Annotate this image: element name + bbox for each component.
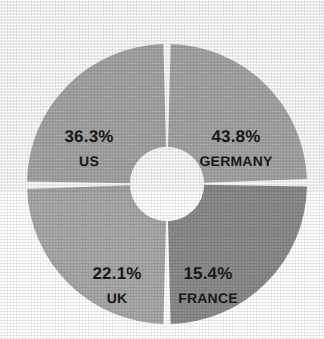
slice-percent-uk: 22.1%: [92, 265, 141, 282]
slice-percent-us: 36.3%: [64, 128, 113, 145]
donut-chart-svg: [0, 0, 324, 339]
slice-name-us: US: [64, 154, 113, 168]
slice-percent-france: 15.4%: [178, 265, 238, 282]
slice-name-uk: UK: [92, 291, 141, 305]
slice-name-france: FRANCE: [178, 291, 238, 305]
donut-hole: [130, 147, 204, 221]
slice-label-uk: 22.1%UK: [92, 265, 141, 305]
slice-label-germany: 43.8%GERMANY: [200, 128, 273, 168]
slice-name-germany: GERMANY: [200, 154, 273, 168]
slice-label-us: 36.3%US: [64, 128, 113, 168]
slice-percent-germany: 43.8%: [200, 128, 273, 145]
slice-label-france: 15.4%FRANCE: [178, 265, 238, 305]
donut-chart: 43.8%GERMANY15.4%FRANCE22.1%UK36.3%US: [0, 0, 324, 339]
